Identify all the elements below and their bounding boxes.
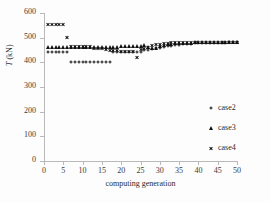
legend-label: case4: [218, 143, 236, 153]
x-axis-tick: [141, 161, 142, 165]
cross-marker: [65, 36, 69, 40]
y-axis-tick-label: 500: [24, 32, 36, 42]
y-axis-label-symbol: T: [5, 62, 14, 66]
legend-label: case2: [218, 103, 236, 113]
cross-marker: [235, 40, 239, 44]
x-axis-tick: [179, 161, 180, 165]
x-axis-tick-label: 10: [79, 166, 87, 176]
x-axis-tick: [83, 161, 84, 165]
y-axis-tick-label: 300: [24, 81, 36, 91]
cross-marker: [209, 146, 213, 150]
x-axis-tick-label: 0: [42, 166, 46, 176]
y-axis-tick-label: 100: [24, 130, 36, 140]
x-axis-tick: [160, 161, 161, 165]
x-axis-tick: [218, 161, 219, 165]
legend-item-case4[interactable]: case4: [206, 138, 268, 158]
x-axis-tick-label: 45: [214, 166, 222, 176]
x-axis-tick-label: 35: [175, 166, 183, 176]
legend-marker-case3: [206, 124, 215, 133]
legend-item-case3[interactable]: case3: [206, 118, 268, 138]
x-axis-tick-label: 50: [233, 166, 241, 176]
legend-marker-case2: [206, 104, 215, 113]
chart-figure: 0100200300400500600 05101520253035404550…: [0, 0, 271, 203]
cross-marker: [135, 55, 139, 59]
x-axis-tick: [198, 161, 199, 165]
y-axis-tick-label: 0: [32, 155, 36, 165]
legend-label: case3: [218, 123, 236, 133]
x-axis-tick: [63, 161, 64, 165]
y-axis-tick-label: 400: [24, 56, 36, 66]
x-axis-ticks: 05101520253035404550: [44, 161, 237, 177]
legend-marker-case4: [206, 144, 215, 153]
legend-item-case2[interactable]: case2: [206, 98, 268, 118]
y-axis-tick-label: 200: [24, 106, 36, 116]
y-axis-tick-label: 600: [24, 7, 36, 17]
x-axis-tick: [237, 161, 238, 165]
x-axis-tick-label: 20: [117, 166, 125, 176]
cross-marker: [61, 23, 65, 27]
x-axis-tick: [44, 161, 45, 165]
x-axis-tick-label: 30: [156, 166, 164, 176]
cross-marker: [131, 49, 135, 53]
circle-marker: [209, 107, 212, 110]
x-axis-tick-label: 5: [61, 166, 65, 176]
x-axis-tick: [121, 161, 122, 165]
triangle-marker: [209, 126, 213, 130]
x-axis-tick-label: 25: [137, 166, 145, 176]
x-axis-label: computing generation: [44, 179, 237, 189]
x-axis-tick-label: 40: [194, 166, 202, 176]
x-axis-tick-label: 15: [98, 166, 106, 176]
y-axis-label-unit: (kN): [5, 44, 14, 61]
chart-legend: case2case3case4: [206, 98, 268, 158]
x-axis-tick: [102, 161, 103, 165]
y-axis-label: T (kN): [5, 44, 14, 66]
